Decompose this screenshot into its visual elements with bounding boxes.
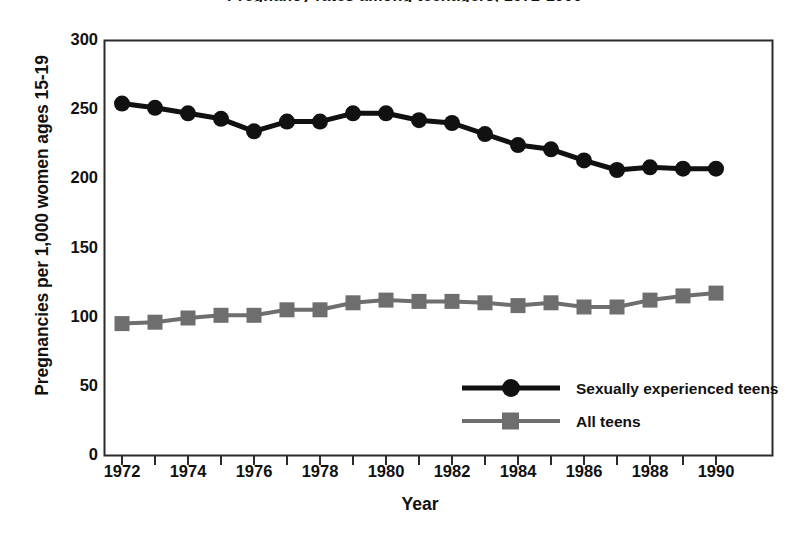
x-tick-label: 1986 — [549, 462, 619, 481]
x-tick-label: 1974 — [153, 462, 223, 481]
chart-figure: Pregnancy rates among teenagers, 1972-19… — [0, 0, 809, 542]
x-tick-label: 1982 — [417, 462, 487, 481]
x-tick-label: 1980 — [351, 462, 421, 481]
x-tick-label: 1972 — [87, 462, 157, 481]
x-tick-label: 1990 — [681, 462, 751, 481]
x-tick-label: 1976 — [219, 462, 289, 481]
x-tick-label: 1978 — [285, 462, 355, 481]
x-tick-label: 1988 — [615, 462, 685, 481]
x-tick-label: 1984 — [483, 462, 553, 481]
legend-label-sexually-experienced-teens: Sexually experienced teens — [576, 380, 778, 398]
x-axis-tick-labels: 1972197419761978198019821984198619881990 — [0, 0, 809, 542]
legend-label-all-teens: All teens — [576, 413, 641, 431]
